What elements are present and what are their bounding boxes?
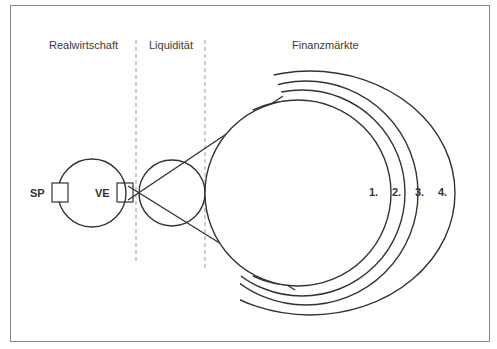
ring-label-2: 2. [392, 186, 401, 198]
sp-label: SP [30, 187, 45, 199]
section-label-liquiditaet: Liquidität [149, 39, 193, 51]
section-label-realwirtschaft: Realwirtschaft [49, 39, 118, 51]
ring-label-4: 4. [438, 186, 447, 198]
ve-label: VE [95, 187, 110, 199]
ring-label-1: 1. [369, 186, 378, 198]
section-label-finanzmaerkte: Finanzmärkte [292, 39, 359, 51]
diagram-canvas: Realwirtschaft Liquidität Finanzmärkte S… [0, 0, 497, 349]
ring-label-3: 3. [415, 186, 424, 198]
finance-ring-1 [205, 100, 391, 286]
sp-node-box [52, 183, 68, 202]
